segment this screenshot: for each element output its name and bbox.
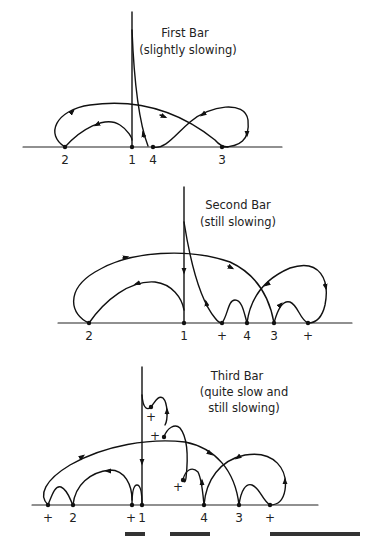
- panel-second-bar: Second Bar (still slowing): [58, 187, 352, 343]
- panel-title: Third Bar: [210, 369, 264, 383]
- arrow: [143, 133, 144, 137]
- point-label: 2: [85, 329, 93, 343]
- point-label: 3: [235, 511, 243, 525]
- floating-marker-label: +: [173, 480, 183, 494]
- curve-mid-wiggle: [164, 426, 187, 482]
- arrow: [123, 257, 127, 258]
- curve-bump: [239, 485, 270, 505]
- curve-bump: [222, 300, 247, 323]
- panel-title: First Bar: [161, 26, 209, 40]
- point-label: 3: [270, 329, 278, 343]
- curve-inner-arc: [65, 122, 132, 147]
- point-label: 1: [180, 329, 188, 343]
- point-label: 3: [218, 153, 226, 167]
- point-label: 1: [128, 153, 136, 167]
- velocity-diagram: First Bar (slightly slowing) 2 1 4 3 Sec…: [0, 0, 378, 538]
- arrow: [228, 266, 232, 268]
- point-label: 4: [243, 329, 251, 343]
- arrow: [160, 115, 165, 117]
- clipped-caption-fragment: [125, 532, 360, 536]
- arrow: [72, 111, 73, 112]
- panel-title: Second Bar: [205, 198, 271, 212]
- point-label: +: [265, 511, 275, 525]
- panel-subtitle: (slightly slowing): [139, 43, 237, 57]
- point-label: 2: [69, 511, 77, 525]
- arrow: [206, 302, 207, 306]
- arrow: [237, 456, 240, 458]
- point-label: +: [126, 511, 136, 525]
- point-label: 4: [149, 153, 157, 167]
- curve-bump: [274, 302, 308, 323]
- panel-subtitle: (still slowing): [200, 215, 276, 229]
- panel-third-bar: Third Bar (quite slow and still slowing): [32, 367, 318, 525]
- curve-bump: [48, 487, 73, 505]
- point-label: +: [303, 329, 313, 343]
- panel-subtitle-line2: still slowing): [208, 401, 280, 415]
- panel-first-bar: First Bar (slightly slowing) 2 1 4 3: [23, 12, 282, 167]
- floating-marker-label: +: [150, 429, 160, 443]
- floating-marker-label: +: [146, 410, 156, 424]
- point-label: +: [43, 511, 53, 525]
- curve-inner-arc: [89, 282, 184, 323]
- curve-right-loop: [204, 454, 285, 505]
- arrow: [80, 456, 83, 458]
- point-label: 1: [138, 511, 146, 525]
- point-label: +: [217, 329, 227, 343]
- arrow: [136, 283, 139, 284]
- curve-right-loop: [247, 266, 326, 323]
- curve-inner-arc: [73, 470, 132, 505]
- curve-spike: [184, 222, 222, 323]
- curve-bump: [132, 485, 142, 505]
- arrow: [325, 284, 326, 288]
- point-label: 2: [61, 153, 69, 167]
- point-label: 4: [200, 511, 208, 525]
- arrow: [96, 124, 98, 125]
- panel-subtitle-line1: (quite slow and: [200, 385, 288, 399]
